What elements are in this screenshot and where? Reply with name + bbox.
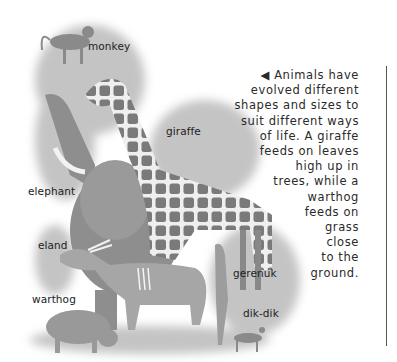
caption-line: evolved different — [219, 83, 359, 98]
caption-line-1: ◀ Animals have — [219, 68, 359, 83]
caption-line: trees, while a — [219, 174, 359, 189]
caption-line: of life. A giraffe — [219, 129, 359, 144]
caption-line: grass — [219, 220, 359, 235]
caption-line: feeds on — [219, 205, 359, 220]
label-warthog: warthog — [32, 293, 76, 305]
label-dikdik: dik-dik — [243, 307, 279, 319]
caption-line: to the — [219, 250, 359, 265]
left-arrow-icon: ◀ — [260, 68, 269, 82]
caption: ◀ Animals have evolved different shapes … — [219, 68, 359, 281]
caption-line: ground. — [219, 266, 359, 281]
label-elephant: elephant — [28, 185, 75, 197]
caption-line: warthog — [219, 190, 359, 205]
label-monkey: monkey — [88, 40, 130, 52]
caption-line: feeds on leaves — [219, 144, 359, 159]
label-giraffe: giraffe — [166, 125, 201, 137]
caption-line: suit different ways — [219, 114, 359, 129]
caption-line: high up in — [219, 159, 359, 174]
margin-rule — [386, 66, 387, 346]
caption-line: shapes and sizes to — [219, 98, 359, 113]
caption-line: close — [219, 235, 359, 250]
label-eland: eland — [38, 239, 68, 251]
